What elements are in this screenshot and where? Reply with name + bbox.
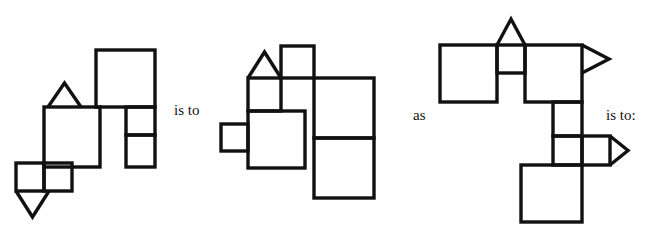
triangle-up-top <box>497 19 525 45</box>
small-square-top-right <box>281 46 314 78</box>
large-square-top-right <box>525 45 582 102</box>
small-square-mid-right <box>582 136 610 165</box>
triangle-down-below-small-square <box>16 191 49 217</box>
small-square-bottom-left <box>16 163 44 191</box>
triangle-up-on-small-square <box>248 52 281 78</box>
analogy-puzzle-canvas: is to as is to: <box>0 0 659 237</box>
small-rect-upper-right <box>126 107 155 135</box>
figure-a <box>16 50 155 217</box>
small-square-mid <box>553 136 582 165</box>
figure-b <box>221 46 374 198</box>
small-square-under-triangle <box>248 78 281 111</box>
connector-text-is-to-first: is to <box>174 103 199 118</box>
connector-text-is-to-second: is to: <box>606 108 636 123</box>
small-rect-below-right <box>553 102 582 136</box>
triangle-right-mid <box>610 136 628 165</box>
tall-rect-upper-right <box>314 78 374 138</box>
large-square-bottom <box>521 165 582 222</box>
triangle-right-top <box>582 45 609 73</box>
large-square-top-right <box>96 50 155 107</box>
puzzle-figures-svg <box>0 0 659 237</box>
small-square-top-middle <box>497 45 525 73</box>
large-square-top-left <box>440 45 497 102</box>
figure-c <box>440 19 628 222</box>
connector-text-as: as <box>413 108 426 123</box>
small-square-left-tab <box>221 124 248 151</box>
small-rect-lower-right <box>126 135 155 167</box>
medium-square-center <box>44 107 100 167</box>
triangle-up-on-center-square <box>48 83 81 107</box>
medium-square-center <box>248 111 305 168</box>
tall-rect-lower-right <box>314 138 374 198</box>
